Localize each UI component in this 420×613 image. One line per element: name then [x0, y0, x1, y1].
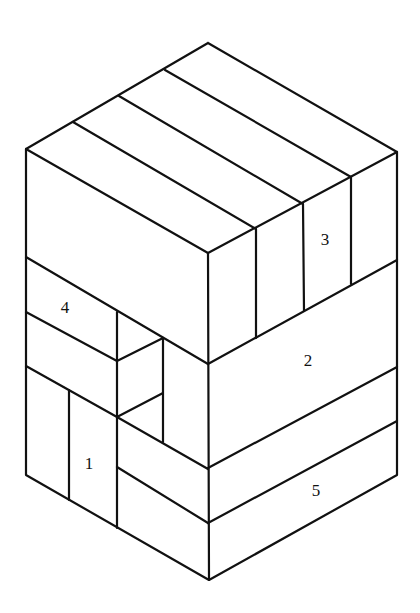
right-face-upper: [208, 177, 397, 364]
outer-outline: [26, 43, 397, 580]
block-assembly-diagram: 1 2 3 4 5: [0, 0, 420, 613]
label-block-3: 3: [321, 230, 330, 249]
right-face-lower: [208, 367, 397, 523]
left-face: [26, 257, 208, 528]
label-block-1: 1: [85, 454, 94, 473]
block-labels: 1 2 3 4 5: [61, 230, 330, 500]
top-face: [26, 70, 397, 253]
label-block-2: 2: [304, 351, 313, 370]
label-block-4: 4: [61, 298, 70, 317]
front-edge: [208, 253, 209, 580]
label-block-5: 5: [312, 481, 321, 500]
